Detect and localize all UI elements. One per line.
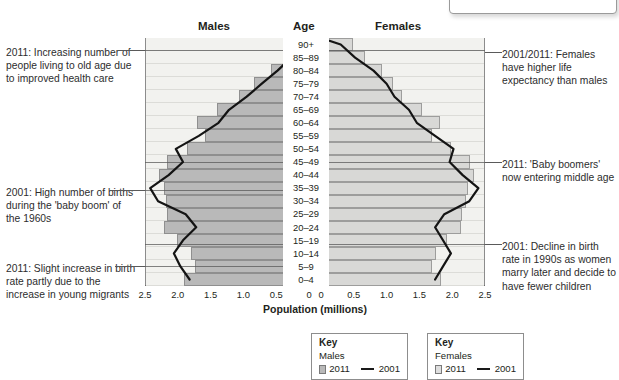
key-males: Key Males 2011 2001 [311,333,408,380]
bar-female-2011 [322,116,440,129]
x-tick-female: 0 [318,289,323,300]
key-males-subtitle: Males [319,350,400,362]
annotation-old-age-leader [118,50,145,51]
key-females-bar-swatch [435,365,442,374]
age-label: 50–54 [284,142,328,155]
age-label: 25–29 [284,208,328,221]
x-tick-female: 2.5 [478,289,491,300]
bar-female-2011 [322,90,402,103]
top-callout-box: by sex and age. [449,0,617,14]
age-label: 85–89 [284,51,328,64]
annotation-boomers-middle: 2011: 'Baby boomers' now entering middle… [502,158,617,184]
key-females-subtitle: Females [435,350,516,362]
x-tick-female: 1.5 [413,289,426,300]
bar-female-2011 [322,273,441,286]
age-label: 80–84 [284,64,328,77]
bar-female-2011 [322,129,432,142]
x-tick-male: 0 [306,289,311,300]
x-tick-male: 2.0 [171,289,184,300]
annotation-boomers-middle-leader [485,162,502,163]
header-females: Females [375,20,421,32]
annotation-birth-decline-leader [485,244,502,245]
x-axis-title: Population (millions) [145,303,485,315]
key-females-bar-label: 2011 [445,363,466,375]
x-tick-male: 0.5 [270,289,283,300]
bar-female-2011 [322,64,382,77]
header-males: Males [198,20,230,32]
age-label: 15–19 [284,234,328,247]
age-label: 75–79 [284,77,328,90]
bar-female-2011 [322,182,468,195]
age-label: 0–4 [284,273,328,286]
age-label: 35–39 [284,182,328,195]
key-males-bar-label: 2011 [329,363,350,375]
bar-female-2011 [322,221,461,234]
key-females: Key Females 2011 2001 [427,333,524,380]
age-label: 65–69 [284,103,328,116]
x-tick-male: 1.0 [237,289,250,300]
annotation-old-age: 2011: Increasing number of people living… [6,46,138,86]
bar-female-2011 [322,260,432,273]
bar-female-2011 [322,77,393,90]
leader-rule [145,190,295,191]
leader-rule [145,266,295,267]
age-label: 90+ [284,38,328,51]
annotation-birth-rate-up-leader [115,266,145,267]
key-males-title: Key [319,337,400,349]
annotation-life-expectancy: 2001/2011: Females have higher life expe… [502,48,617,88]
age-label: 30–34 [284,195,328,208]
age-label: 5–9 [284,260,328,273]
bar-female-2011 [322,195,466,208]
age-label: 45–49 [284,155,328,168]
key-males-bar-swatch [319,365,326,374]
annotation-birth-decline: 2001: Decline in birth rate in 1990s as … [502,240,617,293]
bar-female-2011 [322,103,422,116]
key-males-line-swatch [361,368,374,370]
key-females-title: Key [435,337,516,349]
key-males-line-label: 2001 [379,363,400,375]
x-tick-male: 1.5 [204,289,217,300]
key-females-line-swatch [477,368,490,370]
header-age: Age [293,20,315,32]
bar-female-2011 [322,169,474,182]
age-label-strip: 90+85–8980–8475–7970–7465–6960–6455–5950… [283,38,329,286]
annotation-life-expectancy-leader [485,52,502,53]
age-label: 20–24 [284,221,328,234]
x-tick-male: 2.5 [138,289,151,300]
annotation-baby-boom-leader [110,190,145,191]
bar-female-2011 [322,142,451,155]
age-label: 60–64 [284,116,328,129]
annotation-baby-boom: 2001: High number of births during the '… [6,186,138,226]
age-label: 55–59 [284,129,328,142]
x-tick-female: 0.5 [347,289,360,300]
age-label: 70–74 [284,90,328,103]
bar-female-2011 [322,247,436,260]
annotation-birth-rate-up: 2011: Slight increase in birth rate part… [6,262,138,302]
x-tick-female: 1.0 [380,289,393,300]
age-label: 10–14 [284,247,328,260]
age-label: 40–44 [284,169,328,182]
x-tick-female: 2.0 [446,289,459,300]
key-females-line-label: 2001 [495,363,516,375]
bar-female-2011 [322,208,462,221]
